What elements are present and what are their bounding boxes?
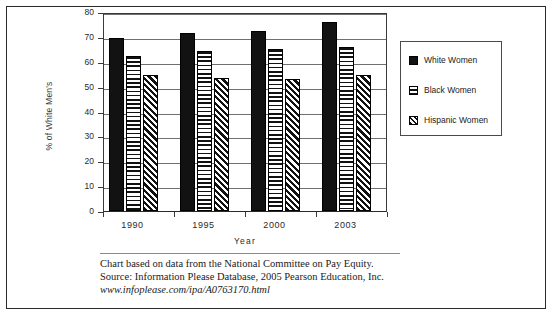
bar-black-women-1990 xyxy=(126,56,142,211)
legend-item-black-women: Black Women xyxy=(409,84,476,96)
legend: White Women Black Women Hispanic Women xyxy=(400,41,502,136)
y-axis-tick-label: 10 xyxy=(70,181,94,191)
legend-swatch-hispanic-women-icon xyxy=(409,116,418,125)
y-axis-tick-label: 30 xyxy=(70,131,94,141)
bar-white-women-2000 xyxy=(251,31,267,211)
bar-black-women-1995 xyxy=(197,51,213,211)
bar-white-women-2003 xyxy=(322,22,338,211)
y-axis-tick-label: 50 xyxy=(70,82,94,92)
bar-black-women-2003 xyxy=(339,47,355,211)
y-axis-title-label: % of White Men's xyxy=(44,56,54,176)
footnote-line-1: Chart based on data from the National Co… xyxy=(100,257,520,270)
x-axis-tick-label: 2000 xyxy=(245,220,305,230)
y-axis-tick-label: 60 xyxy=(70,57,94,67)
chart-page: % of White Men's 80706050403020100 19901… xyxy=(0,0,553,317)
y-axis-tick-label: 0 xyxy=(70,206,94,216)
legend-label-white-women: White Women xyxy=(424,55,477,65)
bar-hispanic-women-1990 xyxy=(143,75,159,211)
y-axis-tick-label: 40 xyxy=(70,107,94,117)
footnote-line-2: Source: Information Please Database, 200… xyxy=(100,270,520,283)
y-axis-title: % of White Men's xyxy=(44,0,58,56)
y-axis-tick-label: 20 xyxy=(70,156,94,166)
bar-white-women-1990 xyxy=(109,38,125,211)
gridline xyxy=(104,39,386,40)
plot-area xyxy=(103,13,387,212)
x-axis-tick xyxy=(245,212,246,217)
bar-hispanic-women-1995 xyxy=(214,78,230,211)
x-axis-tick xyxy=(103,212,104,217)
legend-item-hispanic-women: Hispanic Women xyxy=(409,114,488,126)
x-axis-tick xyxy=(174,212,175,217)
x-axis-tick xyxy=(316,212,317,217)
x-axis-tick-label: 2003 xyxy=(316,220,376,230)
x-axis-tick-label: 1990 xyxy=(103,220,163,230)
y-axis-tick-label: 70 xyxy=(70,32,94,42)
legend-item-white-women: White Women xyxy=(409,54,477,66)
x-axis-title: Year xyxy=(103,236,387,246)
y-axis-tick-label: 80 xyxy=(70,7,94,17)
bar-black-women-2000 xyxy=(268,49,284,211)
footnote: Chart based on data from the National Co… xyxy=(100,257,520,297)
bar-white-women-1995 xyxy=(180,33,196,211)
x-axis-tick xyxy=(387,212,388,217)
legend-swatch-white-women-icon xyxy=(409,56,418,65)
footnote-source-url: www.infoplease.com/ipa/A0763170.html xyxy=(100,283,520,296)
legend-swatch-black-women-icon xyxy=(409,86,418,95)
bar-hispanic-women-2003 xyxy=(356,75,372,211)
legend-label-black-women: Black Women xyxy=(424,85,476,95)
footnote-divider xyxy=(100,253,400,254)
bar-hispanic-women-2000 xyxy=(285,79,301,211)
gridline xyxy=(104,14,386,15)
legend-label-hispanic-women: Hispanic Women xyxy=(424,115,488,125)
x-axis-tick-label: 1995 xyxy=(174,220,234,230)
bar-chart: % of White Men's 80706050403020100 19901… xyxy=(0,0,553,248)
